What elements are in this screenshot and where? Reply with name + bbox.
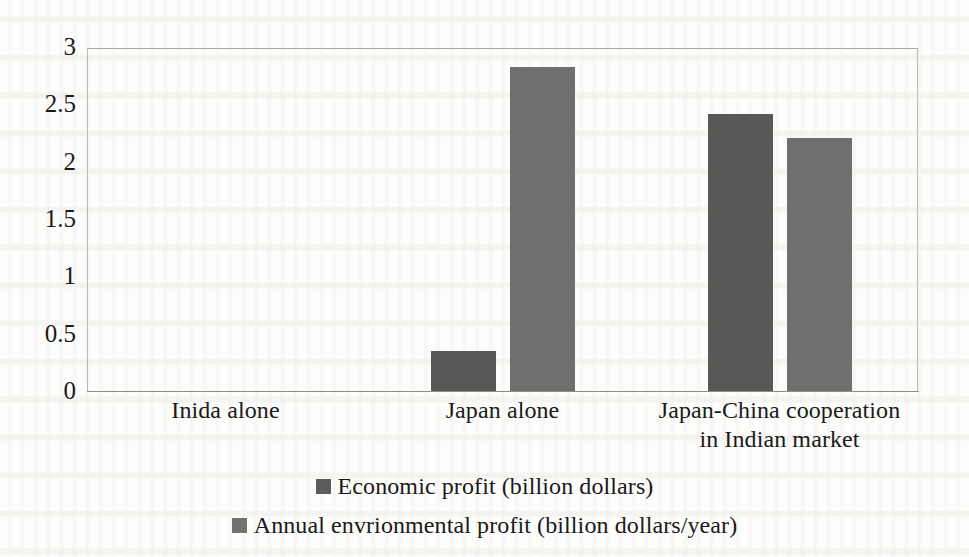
legend-swatch-environmental-profit: [232, 518, 247, 533]
y-tick-label-6: 3: [64, 34, 77, 60]
bar-series-1-category-1: [510, 67, 575, 391]
legend-item-economic-profit: Economic profit (billion dollars): [0, 466, 969, 505]
x-axis-label-line: Inida alone: [87, 396, 364, 425]
x-axis-label-line: Japan alone: [364, 396, 641, 425]
bar-chart: 0 0.5 1 1.5 2 2.5 3 Inida aloneJapan alo…: [0, 0, 969, 557]
y-tick-label-2: 1: [64, 263, 77, 289]
x-axis-baseline: [87, 391, 919, 392]
chart-legend: Economic profit (billion dollars) Annual…: [0, 466, 969, 544]
y-axis: 0 0.5 1 1.5 2 2.5 3: [0, 48, 76, 392]
y-tick-label-3: 1.5: [45, 206, 76, 232]
y-tick-label-1: 0.5: [45, 321, 76, 347]
x-axis-category-labels: Inida aloneJapan aloneJapan-China cooper…: [87, 396, 918, 466]
legend-label-economic-profit: Economic profit (billion dollars): [338, 472, 654, 500]
bars-layer: [87, 48, 918, 391]
bar-series-0-category-2: [708, 114, 773, 391]
y-tick-label-0: 0: [64, 378, 77, 404]
x-axis-label-0: Inida alone: [87, 396, 364, 425]
y-tick-label-4: 2: [64, 149, 77, 175]
legend-item-environmental-profit: Annual envrionmental profit (billion dol…: [0, 505, 969, 544]
bar-series-1-category-2: [787, 138, 852, 391]
y-tick-label-5: 2.5: [45, 91, 76, 117]
x-axis-label-1: Japan alone: [364, 396, 641, 425]
bar-series-0-category-1: [431, 351, 496, 391]
x-axis-label-2: Japan-China cooperationin Indian market: [641, 396, 918, 454]
x-axis-label-line: Japan-China cooperation: [641, 396, 918, 425]
x-axis-label-line: in Indian market: [641, 425, 918, 454]
legend-swatch-economic-profit: [316, 479, 331, 494]
legend-label-environmental-profit: Annual envrionmental profit (billion dol…: [254, 511, 738, 539]
